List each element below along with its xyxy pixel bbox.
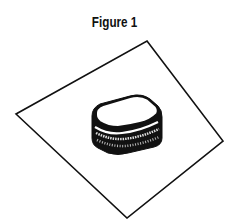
sandwich (92, 95, 162, 155)
figure-illustration (0, 0, 233, 219)
